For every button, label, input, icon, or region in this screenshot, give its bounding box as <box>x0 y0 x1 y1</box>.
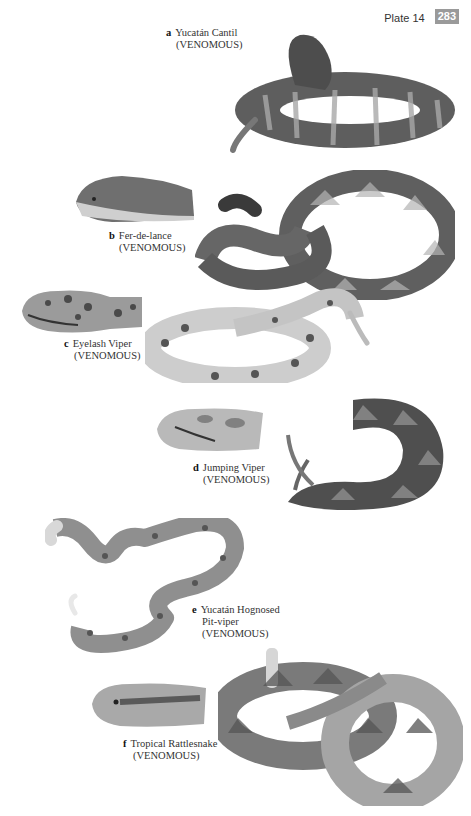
jumping-viper-illustration <box>283 390 448 515</box>
fer-de-lance-illustration <box>195 170 455 300</box>
eyelash-viper-head-illustration <box>18 285 146 337</box>
species-name: Fer-de-lance <box>119 230 172 241</box>
species-name: Eyelash Viper <box>73 338 132 349</box>
species-name: Jumping Viper <box>203 462 265 473</box>
caption-letter: c <box>64 338 69 349</box>
caption-letter: d <box>193 462 199 473</box>
yucatan-cantil-illustration <box>225 30 460 155</box>
caption-jumping-viper: dJumping Viper (VENOMOUS) <box>193 462 270 486</box>
caption-tropical-rattlesnake: fTropical Rattlesnake (VENOMOUS) <box>123 738 217 762</box>
venom-status: (VENOMOUS) <box>192 628 280 640</box>
plate-header: Plate 14 283 <box>384 8 459 24</box>
venom-status: (VENOMOUS) <box>193 474 270 486</box>
tropical-rattlesnake-illustration <box>218 648 463 806</box>
tropical-rattlesnake-head-illustration <box>90 678 208 730</box>
venom-status: (VENOMOUS) <box>123 750 217 762</box>
caption-fer-de-lance: bFer-de-lance (VENOMOUS) <box>109 230 186 254</box>
caption-letter: e <box>192 604 197 615</box>
venom-status: (VENOMOUS) <box>109 242 186 254</box>
caption-yucatan-hognosed-pitviper: eYucatán Hognosed Pit-viper (VENOMOUS) <box>192 604 280 640</box>
fer-de-lance-head-illustration <box>72 172 197 224</box>
caption-letter: f <box>123 738 127 749</box>
species-name: Yucatán Hognosed <box>201 604 280 615</box>
page-number: 283 <box>435 9 459 24</box>
venom-status: (VENOMOUS) <box>64 350 141 362</box>
caption-eyelash-viper: cEyelash Viper (VENOMOUS) <box>64 338 141 362</box>
caption-letter: a <box>166 27 171 38</box>
eyelash-viper-illustration <box>145 288 370 383</box>
caption-letter: b <box>109 230 115 241</box>
plate-label: Plate 14 <box>384 12 424 24</box>
jumping-viper-head-illustration <box>155 405 265 453</box>
species-name: Tropical Rattlesnake <box>131 738 218 749</box>
species-name-line2: Pit-viper <box>192 616 280 628</box>
